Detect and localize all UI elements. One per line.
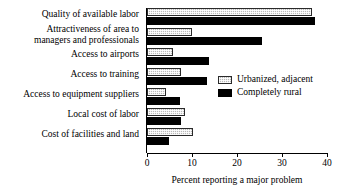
bar-rural-0 [147, 17, 315, 25]
x-tick-2 [237, 153, 238, 157]
bar-urbanized-1 [147, 28, 192, 36]
bar-rural-3 [147, 77, 207, 85]
category-label-5: Local cost of labor [68, 109, 140, 120]
x-tick-1 [192, 153, 193, 157]
legend-item-urbanized: Urbanized, adjacent [218, 74, 313, 85]
bar-urbanized-2 [147, 48, 173, 56]
legend-label-rural: Completely rural [237, 87, 302, 98]
x-tick-0 [147, 153, 148, 157]
legend-swatch-icon-rural [218, 89, 232, 97]
x-tick-label-3: 30 [277, 158, 287, 169]
category-label-2: Access to airports [71, 49, 139, 60]
bar-rural-6 [147, 137, 169, 145]
bar-urbanized-3 [147, 68, 181, 76]
category-axis-labels: Quality of available labor Attractivenes… [0, 0, 143, 194]
bar-urbanized-0 [147, 8, 312, 16]
x-tick-label-1: 10 [187, 158, 197, 169]
x-tick-4 [327, 153, 328, 157]
category-label-0: Quality of available labor [42, 9, 139, 20]
category-label-1: Attractiveness of area to managers and p… [34, 24, 139, 45]
legend-swatch-icon-urbanized [218, 76, 232, 84]
legend-item-rural: Completely rural [218, 87, 313, 98]
bar-rural-2 [147, 57, 209, 65]
bar-urbanized-4 [147, 88, 166, 96]
x-tick-label-0: 0 [145, 158, 150, 169]
bar-rural-4 [147, 97, 180, 105]
category-label-4: Access to equipment suppliers [23, 89, 139, 100]
bar-chart: Quality of available labor Attractivenes… [0, 0, 343, 194]
category-label-6: Cost of facilities and land [41, 129, 139, 140]
chart-legend: Urbanized, adjacent Completely rural [218, 74, 313, 100]
x-tick-label-4: 40 [322, 158, 332, 169]
bar-rural-1 [147, 37, 262, 45]
bar-rural-5 [147, 117, 181, 125]
legend-label-urbanized: Urbanized, adjacent [237, 74, 313, 85]
y-axis-line [146, 8, 147, 153]
bar-urbanized-6 [147, 128, 193, 136]
x-tick-label-2: 20 [232, 158, 242, 169]
bar-urbanized-5 [147, 108, 185, 116]
x-tick-3 [282, 153, 283, 157]
x-axis-title: Percent reporting a major problem [147, 175, 327, 185]
category-label-3: Access to training [70, 69, 139, 80]
